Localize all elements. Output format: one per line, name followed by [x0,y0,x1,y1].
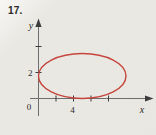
x-axis-arrow-icon [145,95,154,101]
ellipse-curve [39,54,127,99]
y-tick-label: 2 [28,68,33,78]
math-figure: 17. 42 0 y x [0,0,156,135]
origin-label: 0 [27,102,32,112]
y-axis-label: y [28,20,34,31]
y-axis-arrow-icon [35,19,41,28]
x-axis-label: x [139,104,145,115]
figure-plot: 42 0 y x [0,0,156,135]
tick-label-group: 42 [28,68,75,115]
x-tick-label: 4 [70,105,75,115]
